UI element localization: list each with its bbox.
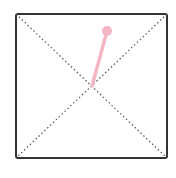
rotation-diagram	[0, 0, 176, 178]
rotation-handle-dot[interactable]	[102, 26, 112, 36]
